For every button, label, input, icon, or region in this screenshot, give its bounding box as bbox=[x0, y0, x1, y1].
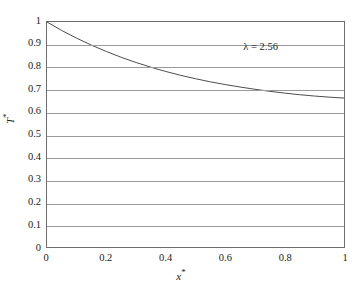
x-axis-tick-label: 0 bbox=[43, 253, 48, 264]
gridline-horizontal bbox=[47, 113, 344, 114]
y-axis-tick-label: 0.7 bbox=[28, 84, 41, 95]
x-axis-tick-label: 0.8 bbox=[279, 253, 292, 264]
y-axis-tick-label: 0.8 bbox=[28, 61, 41, 72]
data-series-line bbox=[47, 22, 344, 98]
y-axis-tick-label: 0.2 bbox=[28, 197, 41, 208]
gridline-horizontal bbox=[47, 45, 344, 46]
y-axis-tick-label: 0.6 bbox=[28, 106, 41, 117]
y-axis-tick-label: 0.4 bbox=[28, 152, 41, 163]
y-axis-tick-label: 0.9 bbox=[28, 38, 41, 49]
y-axis-tick-label: 1 bbox=[36, 16, 41, 27]
x-axis-tick-label: 0.6 bbox=[219, 253, 232, 264]
chart-figure: 00.10.20.30.40.50.60.70.80.91 00.20.40.6… bbox=[0, 0, 362, 290]
x-axis-title: x* bbox=[0, 268, 362, 282]
gridline-horizontal bbox=[47, 204, 344, 205]
gridline-horizontal bbox=[47, 136, 344, 137]
gridline-horizontal bbox=[47, 226, 344, 227]
gridline-horizontal bbox=[47, 90, 344, 91]
curve-svg bbox=[47, 22, 344, 247]
y-axis-tick-label: 0.5 bbox=[28, 129, 41, 140]
gridline-horizontal bbox=[47, 67, 344, 68]
x-axis-tick-label: 0.4 bbox=[159, 253, 172, 264]
gridline-horizontal bbox=[47, 158, 344, 159]
lambda-annotation: λ = 2.56 bbox=[243, 42, 278, 53]
x-axis-tick-label: 1 bbox=[342, 253, 347, 264]
y-axis-tick-label: 0.1 bbox=[28, 220, 41, 231]
plot-area bbox=[46, 21, 345, 248]
gridline-horizontal bbox=[47, 181, 344, 182]
y-axis-tick-label: 0.3 bbox=[28, 174, 41, 185]
y-axis-title: T* bbox=[2, 113, 16, 124]
x-axis-tick-label: 0.2 bbox=[99, 253, 112, 264]
y-axis-tick-label: 0 bbox=[36, 243, 41, 254]
